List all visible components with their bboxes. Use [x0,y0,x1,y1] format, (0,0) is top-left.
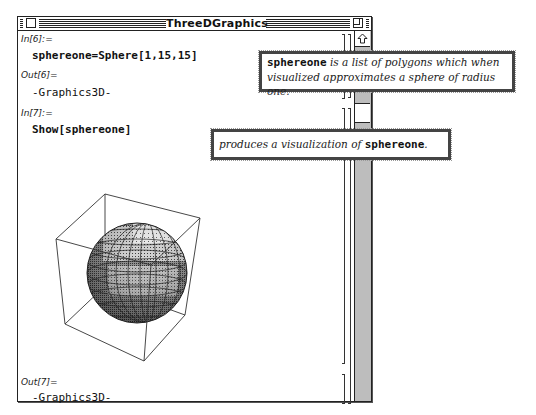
output-cell-7[interactable]: -Graphics3D- [32,391,111,404]
output-cell-6[interactable]: -Graphics3D- [32,86,111,99]
in-label-7: In[7]:= [21,108,53,118]
input-cell-7[interactable]: Show[sphereone] [32,123,131,136]
annotation-term: sphereone [267,56,327,69]
input-cell-6[interactable]: sphereone=Sphere[1,15,15] [32,49,198,62]
title-stripes-left [20,19,166,28]
annotation-term: sphereone [365,138,425,151]
out-label-7: Out[7]= [21,377,58,387]
sphere-graphic[interactable] [48,181,218,371]
cell-bracket-graphic[interactable] [342,146,345,364]
scroll-up-arrow-icon [357,33,368,44]
title-bar[interactable]: ThreeDGraphics [18,17,371,31]
scroll-thumb[interactable] [355,103,370,123]
scroll-up-button[interactable] [355,31,370,47]
zoom-box-button[interactable] [353,18,363,28]
in-label-6: In[6]:= [21,34,53,44]
close-box-button[interactable] [26,18,36,28]
window-title: ThreeDGraphics [166,17,266,30]
out-label-6: Out[6]= [21,70,58,80]
cell-bracket-out7[interactable] [342,374,345,404]
annotation-period: . [424,138,427,150]
annotation-sphereone-definition: sphereone is a list of polygons which wh… [259,51,515,92]
annotation-text-line2: visualized approximates a sphere of radi… [267,70,507,98]
annotation-text: produces a visualization of [219,138,365,150]
annotation-show-description: produces a visualization of sphereone. [211,129,451,160]
annotation-text: is a list of polygons which when [327,56,500,68]
